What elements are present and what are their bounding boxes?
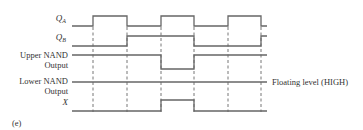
signal-label-x: X (62, 97, 69, 107)
signal-x: X (62, 97, 268, 111)
signal-lower-nand: Lower NAND Output Floating level (HIGH) (19, 76, 348, 96)
floating-level-annotation: Floating level (HIGH) (272, 77, 348, 87)
waveform-x (72, 100, 267, 111)
signal-label-upper-nand-line1: Upper NAND (20, 50, 68, 60)
signal-label-lower-nand-line2: Output (44, 86, 68, 96)
signal-qa: QA (56, 13, 267, 26)
signal-label-lower-nand-line1: Lower NAND (19, 76, 68, 86)
figure-caption: (e) (12, 118, 22, 128)
signal-label-upper-nand-line2: Output (44, 60, 68, 70)
signal-upper-nand: Upper NAND Output (20, 50, 267, 70)
signal-label-qa: QA (56, 13, 67, 24)
waveform-qa (72, 16, 267, 26)
timing-diagram: QA QB Upper NAND Output Lower NAND Outpu… (0, 0, 363, 130)
waveform-upper-nand (72, 55, 267, 69)
signal-label-qb: QB (56, 32, 67, 43)
waveform-qb (72, 36, 267, 46)
